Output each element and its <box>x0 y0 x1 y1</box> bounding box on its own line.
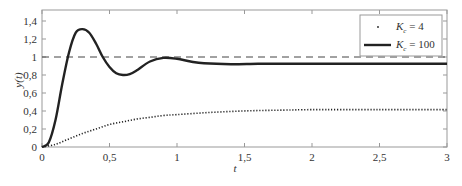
x-tick-label: 2,5 <box>373 151 387 163</box>
x-tick-label: 2 <box>309 151 315 163</box>
legend-dotted-swatch <box>377 26 379 28</box>
y-tick-label: 0,2 <box>23 123 37 135</box>
y-tick-label: 0 <box>32 141 38 153</box>
x-tick-label: 1,5 <box>238 151 252 163</box>
y-tick-label: 1,4 <box>23 15 37 27</box>
y-tick-label: 0,4 <box>23 105 37 117</box>
y-axis-label: y(t) <box>12 72 25 89</box>
legend: Kc = 4 Kc = 100 <box>360 15 442 56</box>
y-tick-label: 1 <box>32 51 38 63</box>
y-tick-label: 0,6 <box>23 87 37 99</box>
series-kc-4 <box>42 110 447 147</box>
step-response-chart: 00,20,40,60,811,21,4 00,511,522,53 t y(t… <box>0 0 462 186</box>
x-tick-label: 1 <box>174 151 180 163</box>
x-tick-label: 0,5 <box>103 151 117 163</box>
x-tick-label: 3 <box>444 151 450 163</box>
x-axis-label: t <box>233 162 237 174</box>
x-tick-label: 0 <box>39 151 45 163</box>
y-tick-label: 0,8 <box>23 69 37 81</box>
y-tick-label: 1,2 <box>23 33 37 45</box>
